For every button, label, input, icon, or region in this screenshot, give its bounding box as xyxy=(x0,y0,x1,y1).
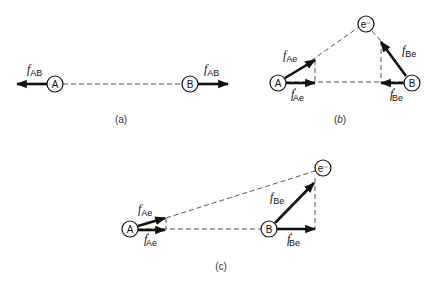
dashed-line-a-e xyxy=(166,171,315,218)
force-diagram: A B fAB fAB (a) A B e⁻ fAe xyxy=(0,0,432,286)
panel-b: A B e⁻ fAe f′Ae fBe f′Be (b) xyxy=(270,16,420,125)
node-electron-label: e⁻ xyxy=(318,163,329,174)
node-electron: e⁻ xyxy=(358,16,374,32)
force-label-fae-prime: f′Ae xyxy=(291,86,304,103)
force-label-fab-left: fAB xyxy=(27,62,42,78)
force-label-fae: fAe xyxy=(283,48,297,64)
node-a: A xyxy=(270,75,286,91)
node-a-label: A xyxy=(52,79,59,90)
force-subscript: Be xyxy=(405,49,416,59)
force-subscript: Be xyxy=(289,238,300,248)
node-b: B xyxy=(261,221,277,237)
force-subscript: Ae xyxy=(293,93,304,103)
force-label-fbe: fBe xyxy=(402,43,416,59)
node-b: B xyxy=(182,76,198,92)
node-b-label: B xyxy=(409,78,416,89)
force-subscript: Be xyxy=(273,196,284,206)
force-subscript: AB xyxy=(207,68,219,78)
node-electron: e⁻ xyxy=(315,160,331,176)
caption-b: (b) xyxy=(334,114,346,125)
panel-c: A B e⁻ fAe f′Ae fBe f′Be (c) xyxy=(122,160,331,272)
force-subscript: Ae xyxy=(141,208,152,218)
force-label-fae: fAe xyxy=(138,202,152,218)
force-subscript: Ae xyxy=(146,238,157,248)
node-electron-label: e⁻ xyxy=(361,19,372,30)
node-a: A xyxy=(122,221,138,237)
force-subscript: Be xyxy=(392,93,403,103)
force-label-fbe-prime: f′Be xyxy=(390,86,403,103)
force-label-fae-prime: f′Ae xyxy=(144,231,157,248)
caption-c: (c) xyxy=(215,261,227,272)
node-a: A xyxy=(47,76,63,92)
caption-a: (a) xyxy=(115,114,127,125)
node-a-label: A xyxy=(275,78,282,89)
force-subscript: AB xyxy=(30,68,42,78)
force-subscript: Ae xyxy=(286,54,297,64)
panel-a: A B fAB fAB (a) xyxy=(17,62,228,125)
node-b-label: B xyxy=(266,224,273,235)
force-label-fbe: fBe xyxy=(270,190,284,206)
node-b-label: B xyxy=(187,79,194,90)
force-label-fab-right: fAB xyxy=(204,62,219,78)
dashed-line-e-b xyxy=(372,31,381,41)
node-a-label: A xyxy=(127,224,134,235)
force-label-fbe-prime: f′Be xyxy=(287,231,300,248)
caption-paren: ) xyxy=(343,114,346,125)
node-b: B xyxy=(404,75,420,91)
force-arrow-fae xyxy=(138,218,165,226)
